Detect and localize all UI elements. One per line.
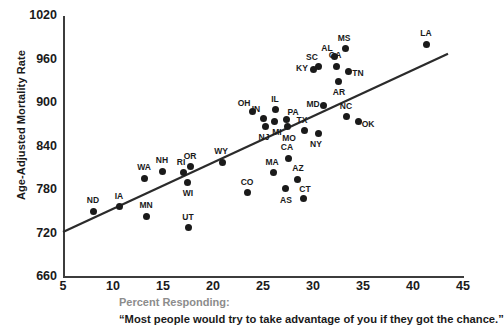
data-point-ny — [315, 130, 322, 137]
data-point-ut — [185, 224, 192, 231]
x-axis-line — [63, 276, 464, 278]
y-tick-840: 840 — [11, 139, 57, 153]
y-tick-1020: 1020 — [11, 8, 57, 22]
point-label-il: IL — [271, 94, 279, 104]
data-point-tn — [345, 68, 352, 75]
x-tick-20: 20 — [198, 279, 228, 293]
data-point-or — [187, 163, 194, 170]
point-label-co: CO — [241, 177, 254, 187]
point-label-ms: MS — [338, 33, 351, 43]
data-point-mi — [271, 118, 278, 125]
point-label-in: IN — [252, 104, 261, 114]
point-label-mi: MI — [272, 127, 281, 137]
data-point-tx — [301, 127, 308, 134]
x-tick-5: 5 — [48, 279, 78, 293]
data-point-nd — [90, 208, 97, 215]
data-point-ri — [180, 169, 187, 176]
point-label-mn: MN — [139, 200, 152, 210]
point-label-wy: WY — [214, 146, 228, 156]
data-point-ms — [342, 45, 349, 52]
y-tick-720: 720 — [11, 226, 57, 240]
point-label-ar: AR — [333, 87, 345, 97]
data-point-co — [244, 189, 251, 196]
x-tick-15: 15 — [148, 279, 178, 293]
point-label-md: MD — [306, 99, 319, 109]
point-label-wi: WI — [183, 188, 193, 198]
point-label-ma: MA — [265, 157, 278, 167]
data-point-wa — [141, 175, 148, 182]
caption-label: Percent Responding: — [119, 296, 230, 308]
point-label-tn: TN — [352, 68, 363, 78]
point-label-or: OR — [184, 151, 197, 161]
x-tick-35: 35 — [348, 279, 378, 293]
data-point-ct — [300, 195, 307, 202]
point-label-ky: KY — [296, 63, 308, 73]
data-point-la — [423, 41, 430, 48]
data-point-ma — [270, 169, 277, 176]
data-point-mo — [284, 123, 291, 130]
y-axis-line — [63, 16, 65, 278]
point-label-ct: CT — [299, 184, 310, 194]
data-point-ia — [116, 203, 123, 210]
point-label-oh: OH — [238, 98, 251, 108]
data-point-nj — [262, 123, 269, 130]
point-label-nj: NJ — [259, 132, 270, 142]
point-label-sc: SC — [306, 52, 318, 62]
point-label-ia: IA — [115, 191, 124, 201]
point-label-nd: ND — [87, 195, 99, 205]
data-point-az — [294, 176, 301, 183]
data-point-sc — [315, 63, 322, 70]
data-point-mn — [143, 213, 150, 220]
x-tick-10: 10 — [98, 279, 128, 293]
x-tick-30: 30 — [298, 279, 328, 293]
point-label-ok: OK — [362, 119, 375, 129]
data-point-il — [272, 106, 279, 113]
point-label-as: AS — [280, 195, 292, 205]
point-label-la: LA — [420, 28, 431, 38]
data-point-wy — [219, 159, 226, 166]
data-point-wi — [184, 179, 191, 186]
data-point-ca — [285, 155, 292, 162]
point-label-ga: GA — [329, 50, 342, 60]
y-tick-960: 960 — [11, 52, 57, 66]
data-point-ga — [333, 63, 340, 70]
data-point-nh — [159, 168, 166, 175]
data-point-pa — [283, 116, 290, 123]
point-label-tx: TX — [297, 115, 308, 125]
x-tick-45: 45 — [448, 279, 478, 293]
data-point-md — [320, 102, 327, 109]
point-label-ny: NY — [310, 139, 322, 149]
data-point-in — [260, 115, 267, 122]
point-label-ca: CA — [281, 142, 293, 152]
data-point-ar — [335, 78, 342, 85]
point-label-wa: WA — [137, 162, 151, 172]
data-point-ok — [355, 118, 362, 125]
y-tick-900: 900 — [11, 95, 57, 109]
point-label-nc: NC — [340, 101, 352, 111]
point-label-ut: UT — [182, 212, 193, 222]
data-point-nc — [343, 113, 350, 120]
x-tick-40: 40 — [398, 279, 428, 293]
data-point-as — [282, 185, 289, 192]
point-label-nh: NH — [156, 155, 168, 165]
y-tick-780: 780 — [11, 182, 57, 196]
caption-question: “Most people would try to take advantage… — [119, 313, 504, 325]
x-tick-25: 25 — [248, 279, 278, 293]
point-label-az: AZ — [292, 163, 303, 173]
